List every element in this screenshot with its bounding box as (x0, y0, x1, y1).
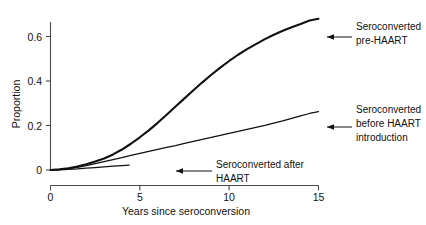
arrowhead-pre-haart (327, 34, 334, 40)
y-tick-label-2: 0.4 (27, 75, 42, 87)
annotation-pre-haart: Seroconverted pre-HAART (356, 21, 421, 46)
annotation-after-haart-line-1: HAART (216, 173, 250, 184)
data-curves (51, 19, 319, 170)
arrowhead-after-haart (176, 168, 183, 174)
x-tick-label-3: 15 (313, 191, 325, 203)
y-axis-ticks (46, 37, 51, 171)
annotation-before-haart-introduction: Seroconverted before HAART introduction (356, 104, 421, 143)
annotation-before-haart-line-1: before HAART (356, 118, 421, 129)
y-tick-label-0: 0 (36, 164, 42, 176)
annotation-pre-haart-line-0: Seroconverted (356, 21, 421, 32)
x-axis-ticks (51, 186, 319, 191)
x-axis-title: Years since seroconversion (122, 205, 250, 217)
annotation-before-haart-line-2: introduction (356, 132, 408, 143)
annotation-pre-haart-line-1: pre-HAART (356, 35, 408, 46)
annotation-leaders (176, 34, 352, 174)
annotation-after-haart: Seroconverted after HAART (216, 159, 304, 184)
chart-figure: 0.6 0.4 0.2 0 Proportion 0 5 10 15 Years… (0, 0, 426, 225)
x-tick-label-2: 10 (223, 191, 235, 203)
y-tick-label-3: 0.6 (27, 31, 42, 43)
arrowhead-before-haart (327, 124, 334, 130)
y-tick-label-1: 0.2 (27, 120, 42, 132)
x-tick-label-1: 5 (137, 191, 143, 203)
chart-svg: 0.6 0.4 0.2 0 Proportion 0 5 10 15 Years… (0, 0, 426, 225)
curve-seroconverted-after-haart (51, 165, 130, 170)
curve-seroconverted-pre-haart (51, 19, 319, 170)
annotation-before-haart-line-0: Seroconverted (356, 104, 421, 115)
x-tick-label-0: 0 (48, 191, 54, 203)
annotation-after-haart-line-0: Seroconverted after (216, 159, 304, 170)
y-axis-title: Proportion (10, 80, 22, 129)
